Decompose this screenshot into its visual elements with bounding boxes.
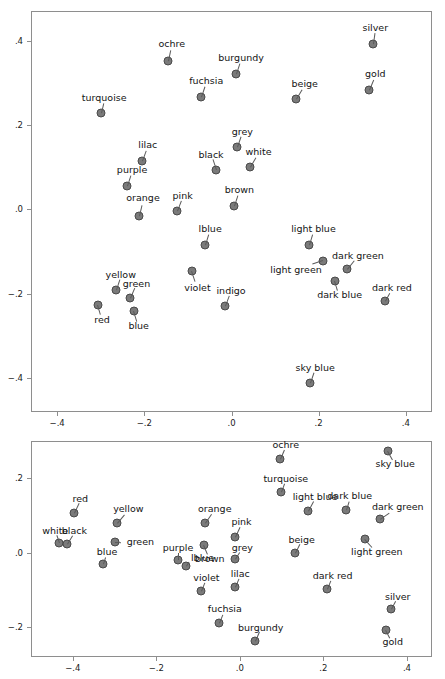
point-label: dark green — [372, 502, 424, 512]
point-label: lblue — [199, 224, 222, 234]
y-tick — [27, 627, 31, 628]
point-label: brown — [225, 185, 254, 195]
y-tick — [27, 378, 31, 379]
point-label: ochre — [158, 39, 185, 49]
x-tick — [319, 412, 320, 416]
point-label: dark red — [313, 571, 353, 581]
point-label: red — [72, 494, 88, 504]
point-label: violet — [193, 573, 219, 583]
point-label: light blue — [291, 224, 336, 234]
point-label: dark green — [332, 251, 384, 261]
point-label: orange — [126, 193, 159, 203]
x-tick-label: .2 — [315, 418, 323, 428]
point-label: lilac — [138, 140, 157, 150]
x-tick — [232, 412, 233, 416]
point-label: green — [123, 279, 150, 289]
point-label: green — [127, 537, 154, 547]
y-tick-label: .2 — [15, 473, 23, 483]
point-label: purple — [117, 165, 147, 175]
figure-root: −.4−.2.0.2.4.4.2.0−.2−.4silverochreburgu… — [0, 0, 445, 679]
x-tick-label: .4 — [403, 663, 411, 673]
point-label: fuchsia — [208, 604, 242, 614]
point-label: light green — [351, 547, 403, 557]
x-tick — [240, 657, 241, 661]
point-label: sky blue — [296, 363, 335, 373]
y-tick — [27, 209, 31, 210]
point-label: fuchsia — [189, 76, 223, 86]
x-tick-label: .2 — [319, 663, 327, 673]
point-label: silver — [385, 592, 411, 602]
point-label: ochre — [272, 440, 299, 450]
y-tick — [27, 553, 31, 554]
point-label: grey — [232, 127, 253, 137]
x-tick — [323, 657, 324, 661]
point-label: turquoise — [263, 474, 308, 484]
point-label: dark blue — [317, 290, 362, 300]
x-tick-label: −.4 — [50, 418, 65, 428]
point-label: pink — [231, 517, 251, 527]
point-label: indigo — [216, 286, 245, 296]
point-label: dark red — [372, 283, 412, 293]
scatter-panel-top: −.4−.2.0.2.4.4.2.0−.2−.4silverochreburgu… — [31, 11, 432, 412]
x-tick — [406, 412, 407, 416]
y-tick-label: −.2 — [8, 622, 23, 632]
point-label: sky blue — [376, 459, 415, 469]
point-label: violet — [184, 283, 210, 293]
point-label: beige — [292, 79, 318, 89]
point-label: gold — [365, 69, 386, 79]
point-label: lblue — [191, 553, 214, 563]
point-label: pink — [173, 191, 193, 201]
point-label: grey — [232, 543, 253, 553]
x-tick — [407, 657, 408, 661]
y-tick-label: −.2 — [8, 289, 23, 299]
point-label: blue — [97, 547, 118, 557]
point-label: black — [198, 150, 223, 160]
y-tick — [27, 478, 31, 479]
y-tick-label: −.4 — [8, 373, 23, 383]
point-label: purple — [163, 543, 193, 553]
point-label: beige — [288, 535, 314, 545]
y-tick — [27, 125, 31, 126]
point-label: yellow — [113, 504, 143, 514]
point-label: black — [62, 526, 87, 536]
x-tick — [144, 412, 145, 416]
point-label: white — [246, 147, 272, 157]
y-tick-label: .2 — [15, 120, 23, 130]
point-label: gold — [382, 637, 403, 647]
point-label: red — [94, 315, 110, 325]
x-tick-label: −.2 — [137, 418, 152, 428]
point-label: light blue — [293, 492, 338, 502]
point-label: lilac — [231, 569, 250, 579]
x-tick-label: .0 — [236, 663, 244, 673]
x-tick — [73, 657, 74, 661]
label-leader-line — [178, 553, 179, 560]
x-tick — [57, 412, 58, 416]
point-label: turquoise — [82, 93, 127, 103]
y-tick-label: .0 — [15, 548, 23, 558]
x-tick-label: .0 — [227, 418, 235, 428]
point-label: burgundy — [238, 623, 284, 633]
scatter-panel-bottom: −.4−.2.0.2.4.2.0−.2sky blueochreturquois… — [31, 441, 432, 657]
y-tick-label: .4 — [15, 36, 23, 46]
point-label: orange — [198, 504, 231, 514]
point-label: silver — [363, 23, 389, 33]
y-tick — [27, 41, 31, 42]
x-tick — [156, 657, 157, 661]
y-tick — [27, 294, 31, 295]
point-label: burgundy — [218, 53, 264, 63]
x-tick-label: −.4 — [65, 663, 80, 673]
x-tick-label: −.2 — [149, 663, 164, 673]
label-leader-line — [115, 542, 121, 543]
point-label: blue — [128, 321, 149, 331]
point-label: light green — [270, 265, 322, 275]
y-tick-label: .0 — [15, 204, 23, 214]
x-tick-label: .4 — [402, 418, 410, 428]
